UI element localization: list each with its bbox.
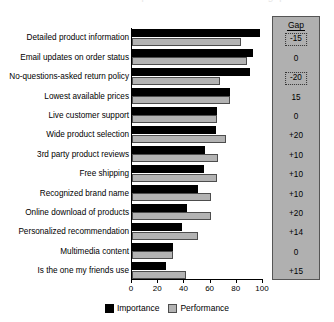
x-axis-tick-label: 0: [129, 284, 133, 293]
gap-value: +14: [285, 227, 307, 238]
chart-legend: Importance Performance: [0, 300, 334, 316]
gap-annotation-panel: Gap -150-20150+20+10+10+10+20+140+15: [272, 16, 320, 280]
bar-importance: [132, 243, 173, 251]
bar-performance: [132, 77, 220, 85]
bar-importance: [132, 185, 198, 193]
category-label: Free shipping: [79, 168, 129, 180]
gap-value: +20: [285, 208, 307, 219]
gap-value: +10: [285, 189, 307, 200]
category-axis-labels: Detailed product informationEmail update…: [0, 28, 131, 280]
bar-importance: [132, 126, 216, 134]
category-label: Wide product selection: [46, 129, 129, 141]
category-label: Lowest available prices: [44, 91, 129, 103]
category-label: Multimedia content: [60, 246, 129, 258]
gap-column-header-text: Gap: [287, 20, 305, 31]
gap-value: 0: [290, 53, 303, 64]
bar-importance: [132, 223, 182, 231]
chart-container: Importance and Performance gap Detailed …: [0, 0, 334, 322]
bar-performance: [132, 271, 186, 279]
gap-column-header: Gap: [273, 20, 319, 30]
category-label: Personalized recommendation: [18, 226, 129, 238]
x-axis-tick: [262, 280, 263, 283]
gap-value: +15: [285, 266, 307, 277]
x-axis-tick: [183, 280, 184, 283]
x-axis-tick: [210, 280, 211, 283]
bar-performance: [132, 135, 226, 143]
chart-title-strip: Importance and Performance gap: [0, 0, 334, 16]
bar-importance: [132, 107, 217, 115]
bar-performance: [132, 115, 217, 123]
category-label: Detailed product information: [27, 32, 129, 44]
x-axis-tick-label: 100: [255, 284, 268, 293]
x-axis: 020406080100: [131, 280, 263, 296]
gap-value: +10: [285, 150, 307, 161]
x-axis-tick-label: 20: [153, 284, 162, 293]
bar-importance: [132, 165, 204, 173]
bar-performance: [132, 57, 247, 65]
x-axis-tick-label: 60: [205, 284, 214, 293]
bar-performance: [132, 232, 198, 240]
x-axis-tick: [131, 280, 132, 283]
bar-importance: [132, 146, 205, 154]
category-label: Online download of products: [25, 207, 129, 219]
bar-importance: [132, 204, 187, 212]
category-label: 3rd party product reviews: [37, 149, 129, 161]
bar-importance: [132, 88, 230, 96]
bar-performance: [132, 96, 230, 104]
gap-value: -20: [285, 72, 307, 85]
bar-performance: [132, 212, 211, 220]
bar-importance: [132, 262, 166, 270]
legend-label-importance: Importance: [117, 303, 160, 313]
gap-value: -15: [285, 33, 307, 46]
chart-title: Importance and Performance gap: [130, 0, 285, 2]
bar-performance: [132, 174, 217, 182]
category-label: No-questions-asked return policy: [9, 71, 129, 83]
bar-importance: [132, 68, 250, 76]
x-axis-tick: [157, 280, 158, 283]
bar-importance: [132, 29, 260, 37]
bar-performance: [132, 251, 173, 259]
gap-value: 0: [290, 111, 303, 122]
category-label: Is the one my friends use: [38, 265, 129, 277]
bar-performance: [132, 38, 241, 46]
bar-performance: [132, 193, 211, 201]
gap-value: 0: [290, 247, 303, 258]
legend-item-performance: Performance: [168, 303, 229, 313]
bar-performance: [132, 154, 218, 162]
x-axis-tick: [236, 280, 237, 283]
legend-swatch-importance: [105, 304, 114, 313]
legend-swatch-performance: [168, 304, 177, 313]
category-label: Live customer support: [48, 110, 129, 122]
category-label: Recognized brand name: [40, 188, 129, 200]
x-axis-tick-label: 40: [179, 284, 188, 293]
legend-item-importance: Importance: [105, 303, 160, 313]
category-label: Email updates on order status: [20, 52, 129, 64]
plot-area: [131, 28, 263, 280]
gap-value: 15: [287, 92, 304, 103]
gap-value: +10: [285, 169, 307, 180]
legend-label-performance: Performance: [180, 303, 229, 313]
bar-importance: [132, 49, 253, 57]
x-axis-tick-label: 80: [231, 284, 240, 293]
gap-value: +20: [285, 130, 307, 141]
